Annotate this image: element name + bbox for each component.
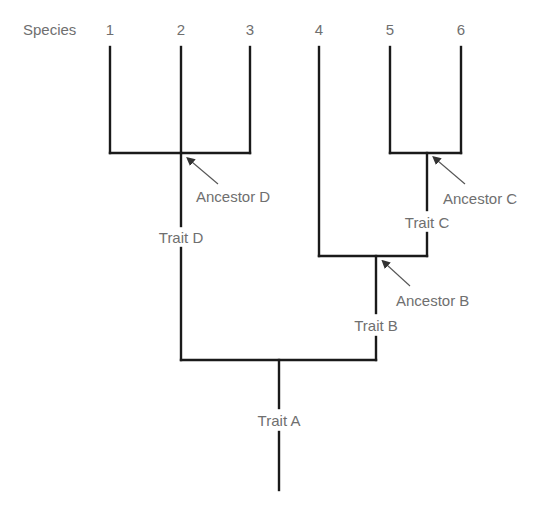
- arrow-ancestor-c: [438, 161, 465, 184]
- species-label-2: 2: [177, 22, 185, 37]
- ancestor-d-label: Ancestor D: [196, 189, 270, 204]
- trait-c-label: Trait C: [403, 214, 451, 231]
- trait-d-label: Trait D: [157, 229, 205, 246]
- cladogram-lines: [0, 0, 544, 518]
- ancestor-c-label: Ancestor C: [443, 191, 517, 206]
- species-label-4: 4: [315, 22, 323, 37]
- species-label-5: 5: [386, 22, 394, 37]
- species-label-6: 6: [457, 22, 465, 37]
- species-label-1: 1: [106, 22, 114, 37]
- trait-a-label: Trait A: [256, 412, 303, 429]
- arrow-ancestor-d: [192, 162, 218, 184]
- ancestor-b-label: Ancestor B: [396, 293, 469, 308]
- trait-b-label: Trait B: [352, 317, 400, 334]
- species-label-3: 3: [246, 22, 254, 37]
- species-header: Species: [23, 22, 76, 37]
- arrow-ancestor-b: [387, 265, 410, 286]
